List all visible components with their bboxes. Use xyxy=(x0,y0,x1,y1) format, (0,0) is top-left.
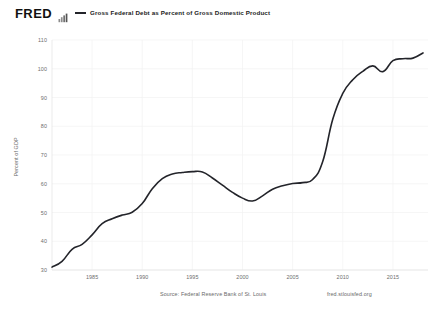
x-tick-label: 2010 xyxy=(328,274,358,280)
plot-area: 30405060708090100110 1985199019952000200… xyxy=(0,0,436,320)
y-tick-label: 60 xyxy=(23,181,47,187)
x-tick-label: 2005 xyxy=(278,274,308,280)
y-tick-label: 40 xyxy=(23,238,47,244)
fred-chart-page: FRED Gross Federal Debt as Percent of Gr… xyxy=(0,0,436,320)
x-tick-label: 2000 xyxy=(228,274,258,280)
y-tick-label: 50 xyxy=(23,210,47,216)
x-tick-label: 1990 xyxy=(127,274,157,280)
x-tick-label: 1985 xyxy=(77,274,107,280)
fred-url-link[interactable]: fred.stlouisfed.org xyxy=(327,291,372,297)
x-tick-label: 2015 xyxy=(378,274,408,280)
gridlines xyxy=(52,40,428,270)
y-tick-label: 110 xyxy=(23,37,47,43)
y-tick-label: 90 xyxy=(23,95,47,101)
x-tick-label: 1995 xyxy=(177,274,207,280)
y-tick-label: 70 xyxy=(23,152,47,158)
y-tick-label: 30 xyxy=(23,267,47,273)
data-line-series-1 xyxy=(52,53,423,267)
chart-svg xyxy=(0,0,436,320)
y-axis-label: Percent of GDP xyxy=(13,127,19,187)
source-text: Source: Federal Reserve Bank of St. Loui… xyxy=(160,291,266,297)
y-tick-label: 100 xyxy=(23,66,47,72)
y-tick-label: 80 xyxy=(23,123,47,129)
